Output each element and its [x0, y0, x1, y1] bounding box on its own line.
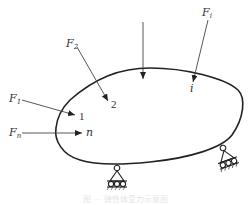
- force-label-fi: Fi: [201, 6, 212, 20]
- point-label-i: i: [190, 82, 194, 95]
- force-label-fn: Fn: [8, 126, 22, 140]
- point-label-1: 1: [79, 110, 85, 122]
- force-f2: F2 2: [65, 37, 117, 110]
- figure-caption: 图 ··· 弹性体受力示意图: [0, 193, 251, 204]
- force-arrow-fi: [193, 20, 208, 82]
- force-fn: Fn n: [8, 126, 93, 140]
- force-fi: Fi i: [190, 6, 212, 95]
- force-label-f1: F1: [8, 92, 21, 106]
- force-label-f2: F2: [65, 37, 79, 51]
- force-arrow-f2: [77, 47, 108, 101]
- force-diagram: Fi i F2 2 F1 1 Fn n: [0, 0, 251, 205]
- point-label-2: 2: [111, 98, 117, 110]
- point-label-n: n: [86, 126, 93, 139]
- support-bottom-icon: [107, 165, 127, 190]
